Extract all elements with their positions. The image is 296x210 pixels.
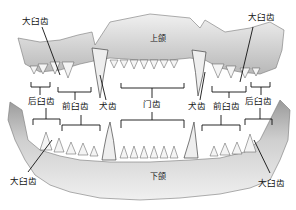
label-incisors: 门齿 (143, 99, 161, 109)
label-left-premolar: 前臼齿 (62, 101, 89, 111)
label-lower-left-carnassial: 大臼齿 (10, 176, 37, 186)
label-right-molar: 后臼齿 (245, 96, 272, 106)
label-left-canine: 犬齿 (99, 101, 117, 111)
label-left-molar: 后臼齿 (28, 96, 55, 106)
label-upper-right-carnassial: 大臼齿 (248, 12, 275, 22)
lower-jaw-label: 下颌 (150, 170, 166, 181)
label-upper-left-carnassial: 大臼齿 (22, 16, 49, 26)
lower-jaw (8, 100, 290, 200)
upper-jaw (18, 14, 284, 98)
teeth-diagram: 上颌 下颌 大臼齿 大臼齿 后臼齿 前臼齿 犬齿 门齿 犬齿 前臼齿 后臼齿 大… (0, 0, 296, 210)
label-right-premolar: 前臼齿 (213, 101, 240, 111)
lower-left-canine (102, 122, 116, 160)
lower-right-canine (184, 122, 198, 158)
upper-right-canine (192, 50, 206, 96)
label-right-canine: 犬齿 (188, 101, 206, 111)
label-lower-right-carnassial: 大臼齿 (258, 178, 285, 188)
upper-left-canine (92, 48, 108, 98)
upper-jaw-label: 上颌 (150, 32, 166, 43)
